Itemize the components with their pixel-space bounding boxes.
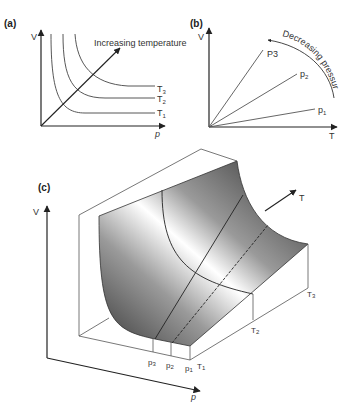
p-axis-label: p xyxy=(154,129,160,139)
panel-b-label: (b) xyxy=(190,18,203,29)
t-axis-label-c: T xyxy=(299,193,305,203)
isobar-p1 xyxy=(209,109,315,127)
t-axis-c xyxy=(265,190,296,211)
panel-a-label: (a) xyxy=(4,18,16,29)
p2-label: p2 xyxy=(300,69,309,80)
increasing-temp-label: Increasing temperature xyxy=(94,38,187,48)
t2-tick-label: T2 xyxy=(251,326,260,335)
panel-a: (a) V p Increasing temperature T3 T2 T1 xyxy=(4,18,187,139)
panel-c: (c) V p T p3 p2 p1 T1 T2 T xyxy=(33,149,316,402)
box-frame-corner xyxy=(79,318,109,336)
increasing-temp-arrow xyxy=(41,48,120,126)
v-axis-label: V xyxy=(31,32,37,42)
isobar-p2 xyxy=(209,74,297,127)
p3-label: P3 xyxy=(267,49,278,59)
t1-tick-label: T1 xyxy=(197,362,206,371)
p-axis-label-c: p xyxy=(190,392,196,402)
t2-label: T2 xyxy=(157,94,167,105)
t3-tick-label: T3 xyxy=(307,290,316,299)
panel-b: (b) V T P3 p2 p1 Decreasing pressure xyxy=(0,0,341,141)
p-axis-c xyxy=(47,358,200,391)
v-axis-label-c: V xyxy=(33,207,39,217)
p1-tick-label: p1 xyxy=(185,364,193,373)
p2-tick-label: p2 xyxy=(166,361,174,370)
t-axis-label-b: T xyxy=(329,131,335,141)
p3-tick-label: p3 xyxy=(148,358,156,367)
v-axis-label-b: V xyxy=(198,32,204,42)
p1-label: p1 xyxy=(318,105,327,116)
isobar-p3 xyxy=(209,50,263,127)
panel-c-label: (c) xyxy=(38,182,50,193)
ideal-gas-diagram: (a) V p Increasing temperature T3 T2 T1 … xyxy=(0,0,348,415)
t1-label: T1 xyxy=(157,108,167,119)
pvt-surface xyxy=(99,161,308,346)
